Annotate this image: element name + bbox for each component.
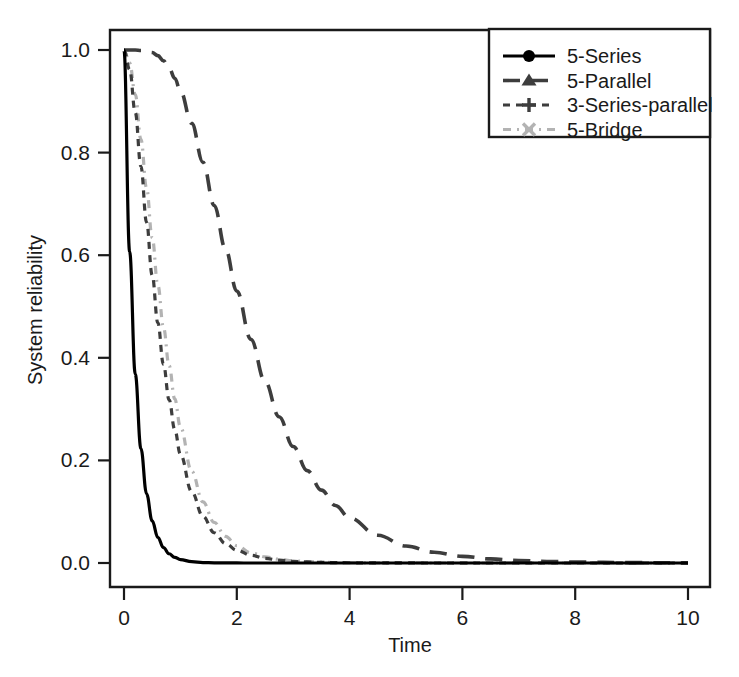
chart-svg: 0.00.20.40.60.81.0 0246810 Time System r… [0, 0, 739, 677]
y-tick-label: 0.0 [61, 551, 90, 574]
x-tick-label: 8 [569, 606, 581, 629]
x-tick-label: 6 [457, 606, 469, 629]
chart-legend: 5-Series5-Parallel3-Series-parallel5-Bri… [489, 29, 713, 141]
y-tick-label: 0.4 [61, 346, 91, 369]
x-tick-label: 2 [231, 606, 243, 629]
legend-label: 5-Bridge [567, 119, 643, 141]
x-tick-label: 0 [118, 606, 130, 629]
legend-marker-filled-circle-icon [523, 50, 535, 62]
x-tick-label: 4 [344, 606, 356, 629]
y-tick-label: 0.8 [61, 141, 90, 164]
legend-label: 5-Series [567, 45, 641, 67]
y-tick-label: 1.0 [61, 38, 90, 61]
legend-label: 5-Parallel [567, 70, 651, 92]
y-tick-label: 0.6 [61, 243, 90, 266]
y-tick-label: 0.2 [61, 448, 90, 471]
reliability-chart-figure: 0.00.20.40.60.81.0 0246810 Time System r… [0, 0, 739, 677]
x-tick-label: 10 [676, 606, 699, 629]
y-axis-title: System reliability [24, 235, 46, 385]
x-axis-title: Time [388, 634, 432, 656]
legend-label: 3-Series-parallel [567, 94, 713, 116]
